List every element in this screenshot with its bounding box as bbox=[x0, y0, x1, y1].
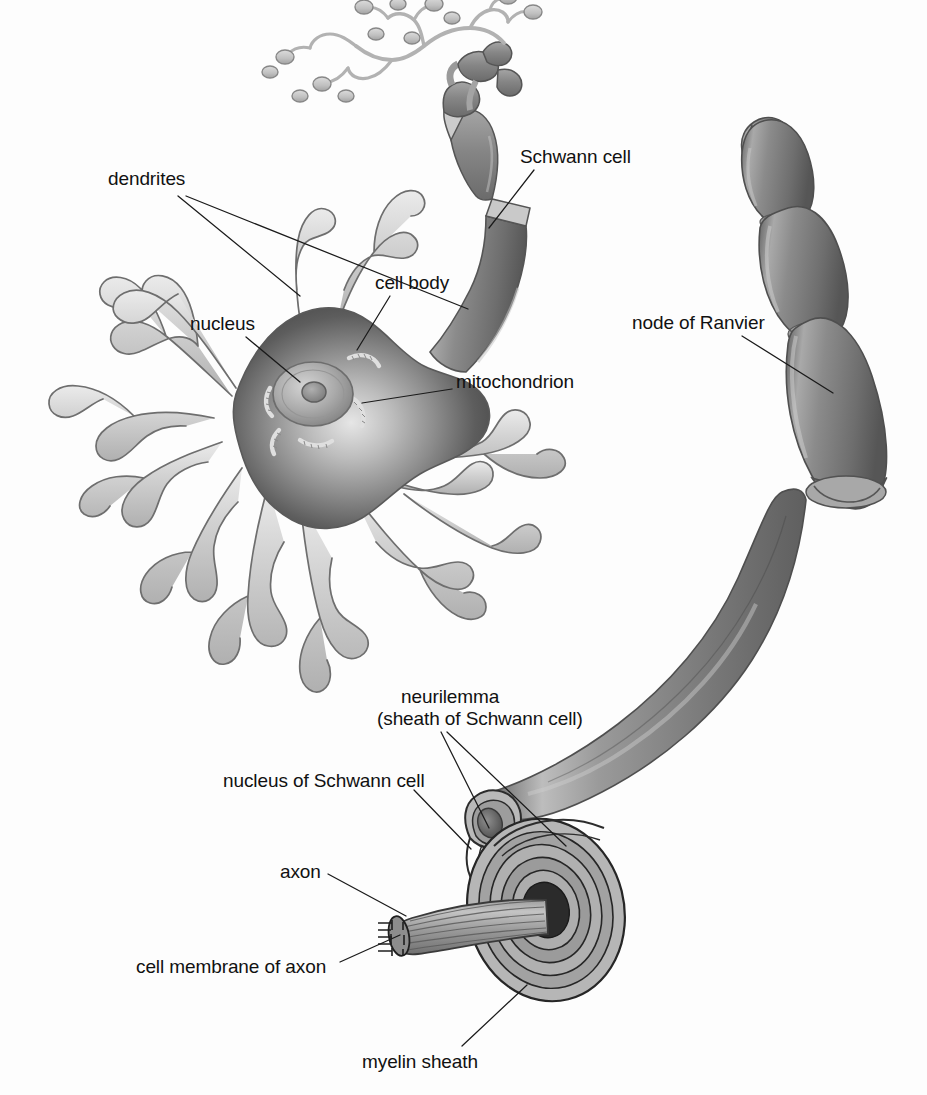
label-nucleus-of-schwann-cell: nucleus of Schwann cell bbox=[223, 770, 425, 792]
leader-line-nucleus-of-schwann-cell bbox=[414, 790, 471, 849]
leader-line-cell-membrane-of-axon bbox=[340, 935, 400, 962]
axon-cutaway bbox=[378, 790, 644, 1018]
leader-line-dendrites bbox=[178, 196, 300, 296]
label-cell-body: cell body bbox=[375, 272, 449, 294]
leader-line-myelin-sheath bbox=[462, 985, 527, 1046]
label-neurilemma-sub: (sheath of Schwann cell) bbox=[377, 708, 583, 730]
label-axon: axon bbox=[280, 861, 321, 883]
label-neurilemma: neurilemma bbox=[401, 686, 499, 708]
label-mitochondrion: mitochondrion bbox=[456, 371, 574, 393]
myelinated-axon-upper bbox=[443, 42, 530, 226]
label-schwann-cell: Schwann cell bbox=[520, 146, 631, 168]
neuron-anatomy-figure: dendritesSchwann cellcell bodynucleusmit… bbox=[0, 0, 927, 1095]
axon-hillock bbox=[430, 216, 527, 372]
node-of-ranvier bbox=[806, 476, 887, 508]
label-cell-membrane-of-axon: cell membrane of axon bbox=[136, 956, 326, 978]
leader-line-axon bbox=[328, 874, 406, 916]
nucleolus bbox=[302, 382, 326, 402]
label-dendrites: dendrites bbox=[108, 168, 185, 190]
nucleus bbox=[273, 362, 353, 426]
label-myelin-sheath: myelin sheath bbox=[362, 1051, 478, 1073]
label-nucleus: nucleus bbox=[190, 313, 255, 335]
neuron-illustration bbox=[0, 0, 927, 1095]
label-node-of-ranvier: node of Ranvier bbox=[632, 312, 765, 334]
